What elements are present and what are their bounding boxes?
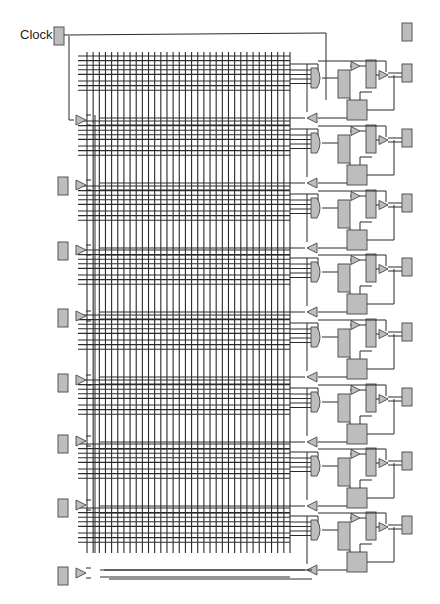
control-block (347, 552, 367, 572)
flip-flop-block (366, 448, 376, 476)
lut-block (338, 329, 350, 357)
mux-icon (311, 456, 320, 476)
io-pad (402, 452, 412, 470)
io-pad (402, 129, 412, 147)
output-buffer-icon (379, 265, 388, 274)
io-pad (402, 388, 412, 406)
control-block (347, 294, 367, 314)
mux-icon (311, 327, 320, 347)
io-pad (58, 242, 68, 260)
io-pad (58, 499, 68, 517)
input-buffer-icon (76, 245, 86, 255)
buffer-icon (351, 192, 360, 201)
flip-flop-block (366, 254, 376, 282)
io-pad (402, 23, 412, 41)
io-pad (402, 64, 412, 82)
feedback-buffer-icon (307, 372, 317, 382)
feedback-buffer-icon (307, 178, 317, 188)
lut-block (338, 394, 350, 422)
flip-flop-block (366, 60, 376, 88)
flip-flop-block (366, 384, 376, 412)
mux-icon (311, 392, 320, 412)
buffer-icon (351, 514, 360, 523)
control-block (347, 100, 367, 120)
output-buffer-icon (379, 523, 388, 532)
flip-flop-block (366, 319, 376, 347)
clock-wire (64, 33, 326, 35)
io-pad (402, 194, 412, 212)
control-block (347, 424, 367, 444)
mux-icon (311, 198, 320, 218)
output-buffer-icon (379, 136, 388, 145)
control-block (347, 230, 367, 250)
buffer-icon (351, 321, 360, 330)
mux-icon (311, 133, 320, 153)
lut-block (338, 458, 350, 486)
feedback-buffer-icon (307, 113, 317, 123)
feedback-buffer-icon (307, 437, 317, 447)
input-buffer-icon (76, 375, 86, 385)
control-block (347, 359, 367, 379)
io-pad (58, 309, 68, 327)
output-buffer-icon (379, 459, 388, 468)
mux-icon (311, 68, 320, 88)
buffer-icon (351, 450, 360, 459)
buffer-icon (351, 256, 360, 265)
lut-block (338, 200, 350, 228)
lut-block (338, 522, 350, 550)
lut-block (338, 264, 350, 292)
buffer-icon (351, 127, 360, 136)
lut-block (338, 70, 350, 98)
circuit-diagram (0, 0, 440, 604)
feedback-buffer-icon (307, 243, 317, 253)
flip-flop-block (366, 125, 376, 153)
io-pad (402, 516, 412, 534)
buffer-icon (351, 386, 360, 395)
io-pad (58, 177, 68, 195)
input-buffer-icon (76, 180, 86, 190)
input-buffer-icon (76, 568, 86, 578)
io-pad (402, 323, 412, 341)
output-buffer-icon (379, 395, 388, 404)
lut-block (338, 135, 350, 163)
feedback-buffer-icon (307, 501, 317, 511)
io-pad (58, 435, 68, 453)
control-block (347, 165, 367, 185)
output-buffer-icon (379, 201, 388, 210)
mux-icon (311, 520, 320, 540)
io-pad (402, 258, 412, 276)
buffer-icon (351, 62, 360, 71)
clock-pad (54, 27, 64, 45)
output-buffer-icon (379, 71, 388, 80)
io-pad (58, 374, 68, 392)
flip-flop-block (366, 190, 376, 218)
mux-icon (311, 262, 320, 282)
feedback-buffer-icon (307, 307, 317, 317)
io-pad (58, 567, 68, 585)
input-buffer-icon (76, 115, 86, 125)
flip-flop-block (366, 512, 376, 540)
output-buffer-icon (379, 330, 388, 339)
control-block (347, 488, 367, 508)
